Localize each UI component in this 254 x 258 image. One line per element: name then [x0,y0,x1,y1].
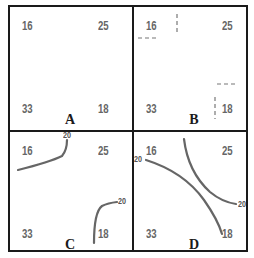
isoline-label: 20 [238,199,246,209]
panel-label: C [65,237,75,253]
value-top-left: 16 [22,19,33,33]
panel-label: B [189,112,198,128]
isoline-label: 20 [118,196,126,206]
panel-c: 16 25 33 18 20 20 C [10,132,130,253]
value-bottom-right: 18 [98,102,109,116]
panel-label: A [65,112,75,128]
isoline-figure: 16 25 33 18 A 16 25 33 18 B 16 25 33 18 … [8,5,248,252]
isolines [10,132,130,253]
value-top-right: 25 [98,19,109,33]
panel-b: 16 25 33 18 B [134,7,254,128]
value-bottom-left: 33 [22,102,33,116]
dashed-marks [134,7,254,128]
panel-a: 16 25 33 18 A [10,7,130,128]
isoline-label: 20 [134,154,142,164]
panel-d: 16 25 33 18 20 20 D [134,132,254,253]
isoline-label: 20 [63,130,71,140]
isolines [134,132,254,253]
panel-label: D [189,237,199,253]
